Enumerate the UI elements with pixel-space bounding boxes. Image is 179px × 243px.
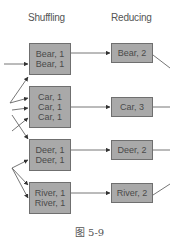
shuffle-line: Car, 1: [38, 112, 62, 122]
shuffle-line: Bear, 1: [36, 49, 65, 59]
stage-title-shuffling: Shuffling: [28, 12, 65, 23]
figure-caption: 图 5-9: [0, 224, 179, 239]
reduce-box-deer: Deer, 2: [111, 140, 153, 160]
stage-title-reducing: Reducing: [111, 12, 152, 23]
shuffle-line: Car, 1: [38, 102, 62, 112]
shuffle-line: Deer, 1: [35, 155, 64, 165]
shuffle-line: Car, 1: [38, 92, 62, 102]
reduce-label: Deer, 2: [117, 145, 146, 155]
shuffle-box-bear: Bear, 1 Bear, 1: [29, 43, 71, 75]
shuffle-line: Bear, 1: [36, 59, 65, 69]
reduce-label: Bear, 2: [118, 48, 147, 58]
shuffle-line: River, 1: [35, 188, 66, 198]
shuffle-box-deer: Deer, 1 Deer, 1: [29, 139, 71, 171]
shuffle-box-river: River, 1 River, 1: [29, 182, 71, 214]
shuffle-line: River, 1: [35, 198, 66, 208]
reduce-label: River, 2: [117, 188, 148, 198]
reduce-box-river: River, 2: [111, 183, 153, 203]
shuffle-line: Deer, 1: [35, 145, 64, 155]
reduce-box-bear: Bear, 2: [111, 43, 153, 63]
reduce-box-car: Car, 3: [111, 97, 153, 117]
shuffle-box-car: Car, 1 Car, 1 Car, 1: [29, 86, 71, 128]
reduce-label: Car, 3: [120, 102, 144, 112]
connector-lines: [0, 0, 179, 243]
